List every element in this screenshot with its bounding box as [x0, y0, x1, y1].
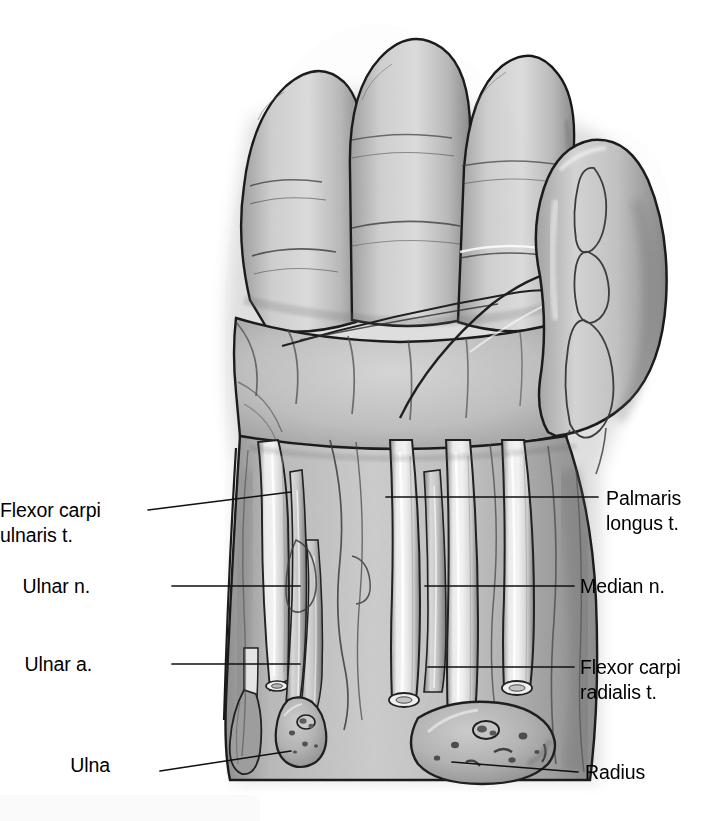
label-palmaris-longus-line1: Palmaris — [606, 487, 681, 509]
label-ulna-line1: Ulna — [70, 754, 110, 776]
label-radius-line1: Radius — [585, 761, 645, 783]
label-flexor-carpi-radialis: Flexor carpiradialis t. — [580, 655, 681, 705]
label-ulna: Ulna — [0, 753, 110, 778]
label-palmaris-longus-line2: longus t. — [606, 511, 681, 536]
label-median-nerve: Median n. — [580, 574, 665, 599]
label-flexor-carpi-ulnaris-line2: ulnaris t. — [0, 523, 22, 548]
label-flexor-carpi-ulnaris: Flexor carpiulnaris t. — [0, 498, 22, 548]
label-median-nerve-line1: Median n. — [580, 575, 665, 597]
label-palmaris-longus: Palmarislongus t. — [606, 486, 681, 536]
label-ulnar-nerve-line1: Ulnar n. — [23, 575, 90, 597]
label-radius: Radius — [585, 760, 645, 785]
bottom-corner-panel — [0, 795, 260, 821]
label-ulnar-artery: Ulnar a. — [0, 652, 92, 677]
label-ulnar-nerve: Ulnar n. — [0, 574, 90, 599]
label-flexor-carpi-radialis-line1: Flexor carpi — [580, 656, 681, 678]
label-ulnar-artery-line1: Ulnar a. — [25, 653, 92, 675]
label-flexor-carpi-radialis-line2: radialis t. — [580, 680, 681, 705]
label-flexor-carpi-ulnaris-line1: Flexor carpi — [0, 499, 101, 521]
